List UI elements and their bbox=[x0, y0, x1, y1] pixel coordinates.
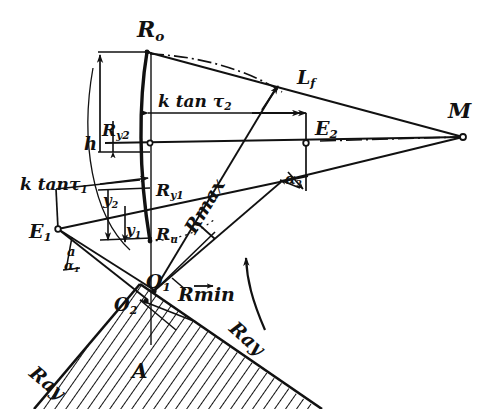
point-O2 bbox=[143, 298, 148, 303]
label-R0: Ro bbox=[136, 16, 164, 44]
sweep-arc-left bbox=[88, 68, 130, 250]
label-alpha1: α1 bbox=[64, 258, 80, 274]
label-E1: E1 bbox=[28, 220, 52, 244]
point-Ry2 bbox=[147, 140, 152, 145]
label-alpha2: α2 bbox=[285, 171, 302, 189]
label-alpha1-upper: a bbox=[67, 244, 75, 259]
Lf-arrow bbox=[262, 86, 278, 110]
point-R0 bbox=[145, 50, 150, 55]
label-M: M bbox=[447, 98, 472, 123]
technical-diagram: Ro Ry2 Ry1 Ru h y2 y1 k tan τ2 k tanτ1 E… bbox=[0, 0, 484, 409]
point-M bbox=[460, 134, 466, 140]
dim-ktan-tau1-arrow bbox=[100, 178, 148, 184]
label-ktan-tau1: k tanτ1 bbox=[20, 174, 88, 195]
dashdot-arc-top bbox=[150, 54, 282, 92]
blade-profile-arc bbox=[141, 52, 150, 241]
label-y1: y1 bbox=[125, 221, 141, 240]
point-E2 bbox=[303, 140, 309, 146]
label-Ru: Ru bbox=[155, 224, 178, 245]
ktan-tau1-left bbox=[56, 189, 58, 229]
point-E1 bbox=[55, 226, 61, 232]
rotation-direction-arrow bbox=[246, 258, 265, 330]
label-Ry2: Ry2 bbox=[101, 120, 130, 141]
label-Ry1: Ry1 bbox=[155, 180, 184, 201]
label-y2: y2 bbox=[102, 191, 119, 210]
diagram-canvas: Ro Ry2 Ry1 Ru h y2 y1 k tan τ2 k tanτ1 E… bbox=[0, 0, 484, 409]
label-A: A bbox=[130, 359, 148, 383]
label-E2: E2 bbox=[314, 117, 338, 141]
label-ktan-tau2: k tan τ2 bbox=[158, 91, 232, 112]
label-h: h bbox=[84, 133, 97, 154]
point-Ru bbox=[148, 239, 153, 244]
label-Lf: Lf bbox=[296, 66, 317, 90]
label-O1: O1 bbox=[146, 270, 171, 294]
